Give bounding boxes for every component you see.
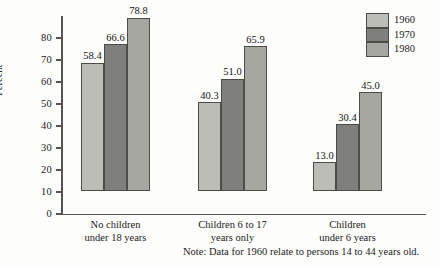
- bar-1980-group3: [359, 92, 382, 191]
- bar-chart: Percent 01020304050607080 58.466.678.840…: [0, 0, 440, 266]
- bar-wrap: 40.3: [198, 15, 221, 191]
- bar-value-label: 13.0: [315, 150, 333, 161]
- y-tick-label-70: 70: [0, 55, 52, 66]
- y-tick-label-30: 30: [0, 143, 52, 154]
- y-tick-label-50: 50: [0, 99, 52, 110]
- bar-1980-group1: [127, 18, 150, 191]
- bar-value-label: 40.3: [200, 90, 218, 101]
- legend-label-1960: 1960: [394, 14, 415, 26]
- y-tick-label-80: 80: [0, 33, 52, 44]
- bar-1960-group2: [198, 102, 221, 191]
- y-tick-label-40: 40: [0, 121, 52, 132]
- y-tick-label-10: 10: [0, 187, 52, 198]
- bar-value-label: 78.8: [129, 5, 147, 16]
- bar-wrap: 65.9: [244, 15, 267, 191]
- legend-swatch-1980: [366, 42, 389, 57]
- bar-1970-group2: [221, 79, 244, 191]
- legend-swatch-1960: [366, 13, 389, 28]
- bar-wrap: 78.8: [127, 15, 150, 191]
- category-label-line: Children: [278, 219, 418, 232]
- category-label-line: under 6 years: [278, 232, 418, 245]
- legend-label-1980: 1980: [394, 43, 415, 55]
- legend-item-1960: 1960: [366, 13, 426, 28]
- bar-wrap: 66.6: [104, 15, 127, 191]
- bar-1970-group3: [336, 124, 359, 191]
- bar-wrap: 51.0: [221, 15, 244, 191]
- bar-value-label: 51.0: [223, 66, 241, 77]
- bar-value-label: 30.4: [338, 112, 356, 123]
- legend-item-1980: 1980: [366, 42, 426, 57]
- bar-value-label: 45.0: [361, 80, 379, 91]
- category-label-3: Childrenunder 6 years: [278, 219, 418, 244]
- chart-note: Note: Data for 1960 relate to persons 14…: [183, 246, 419, 258]
- bar-1970-group1: [104, 44, 127, 191]
- bar-wrap: 58.4: [81, 15, 104, 191]
- bar-1960-group3: [313, 162, 336, 191]
- bar-wrap: 13.0: [313, 15, 336, 191]
- bar-wrap: 30.4: [336, 15, 359, 191]
- legend: 1960 1970 1980: [366, 13, 426, 57]
- legend-item-1970: 1970: [366, 28, 426, 43]
- bar-value-label: 58.4: [83, 50, 101, 61]
- y-tick-label-0: 0: [0, 209, 52, 220]
- bar-value-label: 65.9: [246, 34, 264, 45]
- legend-swatch-1970: [366, 28, 389, 43]
- legend-label-1970: 1970: [394, 29, 415, 41]
- bar-1960-group1: [81, 63, 104, 191]
- y-tick-label-20: 20: [0, 165, 52, 176]
- bar-1980-group2: [244, 46, 267, 191]
- bar-value-label: 66.6: [106, 32, 124, 43]
- y-tick-label-60: 60: [0, 77, 52, 88]
